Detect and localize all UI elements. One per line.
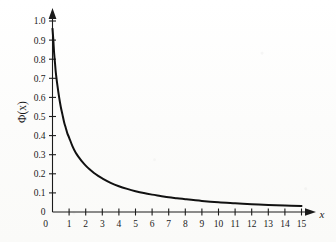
- chart-canvas: 00.10.20.30.40.50.60.70.80.91.0 01234567…: [0, 0, 336, 242]
- y-tick-label: 0.4: [34, 131, 46, 141]
- x-tick-label: 15: [297, 219, 307, 229]
- y-axis-arrow: [49, 8, 57, 19]
- y-tick-label: 0.5: [34, 112, 46, 122]
- y-tick-label: 0.3: [34, 150, 46, 160]
- x-tick-label: 0: [43, 219, 48, 229]
- y-tick-label: 0.1: [34, 188, 46, 198]
- x-axis-arrow: [305, 208, 316, 215]
- x-axis-title: x: [319, 208, 325, 220]
- x-tick-labels: 0123456789101112131415: [43, 219, 306, 229]
- y-tick-label: 0: [41, 207, 46, 217]
- y-tick-label: 0.7: [34, 74, 46, 84]
- y-tick-label: 0.9: [34, 36, 46, 46]
- x-tick-label: 3: [100, 219, 105, 229]
- x-tick-label: 4: [117, 219, 122, 229]
- x-tick-label: 7: [166, 219, 171, 229]
- x-tick-label: 1: [67, 219, 72, 229]
- x-tick-label: 5: [133, 219, 138, 229]
- x-tick-label: 2: [83, 219, 88, 229]
- y-axis-title: Φ(x): [16, 101, 29, 123]
- y-tick-labels: 00.10.20.30.40.50.60.70.80.91.0: [34, 16, 46, 217]
- x-tick-label: 6: [150, 219, 155, 229]
- y-tick-label: 0.8: [34, 55, 46, 65]
- figure-plot: 00.10.20.30.40.50.60.70.80.91.0 01234567…: [0, 0, 336, 242]
- x-tick-label: 13: [264, 219, 274, 229]
- y-tick-label: 1.0: [34, 16, 46, 26]
- x-tick-label: 8: [183, 219, 188, 229]
- y-tick-label: 0.2: [34, 169, 46, 179]
- x-axis: [53, 208, 317, 215]
- data-series-curve: [53, 29, 302, 206]
- x-tick-label: 10: [214, 219, 224, 229]
- x-tick-label: 11: [231, 219, 240, 229]
- x-tick-label: 12: [247, 219, 257, 229]
- y-tick-label: 0.6: [34, 93, 46, 103]
- x-tick-label: 14: [280, 219, 290, 229]
- x-tick-label: 9: [200, 219, 205, 229]
